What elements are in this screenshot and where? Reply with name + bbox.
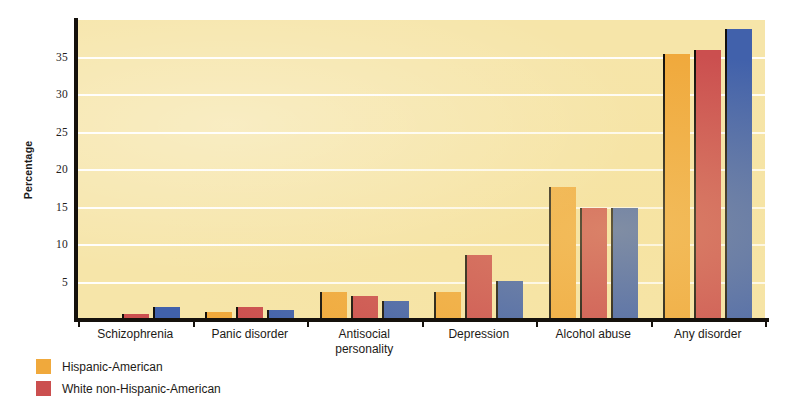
x-axis-category-label: Antisocialpersonality <box>307 327 422 356</box>
legend-item: Hispanic-American <box>36 357 456 376</box>
gridline <box>78 132 765 134</box>
bar <box>694 50 721 320</box>
x-axis-tick <box>765 322 767 327</box>
x-axis-category-label-line: Alcohol abuse <box>536 327 651 342</box>
x-axis-category-label: Depression <box>422 327 537 342</box>
y-axis-tick-label: 5 <box>40 276 68 288</box>
x-axis-tick <box>307 322 309 327</box>
legend-label: Hispanic-American <box>62 360 163 374</box>
gridline <box>78 94 765 96</box>
x-axis-tick <box>536 322 538 327</box>
bar <box>725 29 752 320</box>
bar <box>663 54 690 320</box>
x-axis-category-label-line: Any disorder <box>651 327 766 342</box>
y-axis-tick-label: 10 <box>40 238 68 250</box>
x-axis-line <box>74 318 769 322</box>
x-axis-tick <box>422 322 424 327</box>
gridline <box>78 282 765 284</box>
x-axis-category-label: Schizophrenia <box>78 327 193 342</box>
gridline <box>78 57 765 59</box>
x-axis-category-label: Panic disorder <box>193 327 308 342</box>
bar <box>351 296 378 320</box>
y-axis-tick-label: 25 <box>40 126 68 138</box>
bar <box>580 208 607 321</box>
gridline <box>78 244 765 246</box>
x-axis-tick <box>651 322 653 327</box>
x-axis-category-label: Any disorder <box>651 327 766 342</box>
x-axis-tick <box>193 322 195 327</box>
bar <box>465 255 492 320</box>
y-axis-tick-label: 20 <box>40 163 68 175</box>
gridline <box>78 169 765 171</box>
x-axis-category-label-line: Panic disorder <box>193 327 308 342</box>
x-axis-category-label-line: Depression <box>422 327 537 342</box>
bar <box>549 187 576 320</box>
y-axis-title-text: Percentage <box>22 141 34 200</box>
legend-item: White non-Hispanic-American <box>36 379 456 398</box>
legend-color-swatch <box>36 359 51 374</box>
bar <box>611 208 638 320</box>
gridline <box>78 207 765 209</box>
y-axis-line <box>74 18 78 322</box>
x-axis-tick <box>78 322 80 327</box>
bar <box>496 281 523 320</box>
legend-label: White non-Hispanic-American <box>62 382 221 396</box>
legend-color-swatch <box>36 381 51 396</box>
x-axis-category-label-line: Schizophrenia <box>78 327 193 342</box>
legend: Hispanic-AmericanWhite non-Hispanic-Amer… <box>36 357 456 400</box>
x-axis-category-label-line: personality <box>307 342 422 357</box>
y-axis-tick-label: 35 <box>40 51 68 63</box>
bar <box>434 292 461 320</box>
x-axis-category-label: Alcohol abuse <box>536 327 651 342</box>
bar <box>320 292 347 320</box>
y-axis-title: Percentage <box>18 120 38 220</box>
y-axis-tick-label: 30 <box>40 88 68 100</box>
plot-area <box>78 20 765 320</box>
x-axis-category-label-line: Antisocial <box>307 327 422 342</box>
y-axis-tick-label: 15 <box>40 201 68 213</box>
